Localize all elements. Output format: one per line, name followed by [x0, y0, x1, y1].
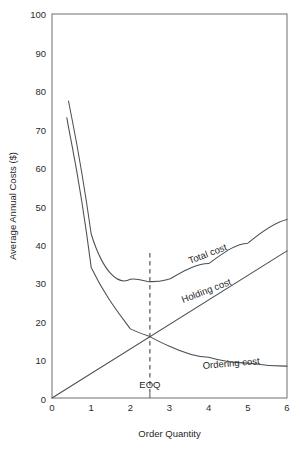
y-tick-60: 60 — [35, 163, 46, 174]
y-tick-label-80: 80 — [35, 86, 46, 97]
x-tick-label-3: 3 — [167, 402, 172, 413]
x-tick-label-1: 1 — [89, 402, 94, 413]
y-tick-30: 30 — [35, 278, 46, 289]
y-tick-label-0: 0 — [41, 394, 46, 405]
y-axis-title: Average Annual Costs ($) — [7, 152, 18, 260]
y-tick-label-90: 90 — [35, 48, 46, 59]
y-tick-0: 0 — [41, 394, 46, 405]
y-axis-group: 100 90 80 70 60 50 40 30 — [30, 9, 46, 405]
y-tick-label-20: 20 — [35, 317, 46, 328]
y-tick-80: 80 — [35, 86, 46, 97]
y-tick-label-30: 30 — [35, 278, 46, 289]
y-tick-90: 90 — [35, 48, 46, 59]
eoq-chart: 100 90 80 70 60 50 40 30 — [0, 0, 300, 452]
y-tick-10: 10 — [35, 355, 46, 366]
y-tick-40: 40 — [35, 240, 46, 251]
y-tick-20: 20 — [35, 317, 46, 328]
y-tick-50: 50 — [35, 202, 46, 213]
y-tick-label-60: 60 — [35, 163, 46, 174]
eoq-annotation-label: EOQ — [139, 379, 160, 390]
y-tick-label-10: 10 — [35, 355, 46, 366]
chart-canvas: 100 90 80 70 60 50 40 30 — [0, 0, 300, 452]
y-tick-label-100: 100 — [30, 9, 46, 20]
x-tick-label-4: 4 — [206, 402, 211, 413]
x-axis-title: Order Quantity — [138, 428, 201, 439]
x-tick-label-2: 2 — [128, 402, 133, 413]
y-tick-70: 70 — [35, 125, 46, 136]
y-tick-label-50: 50 — [35, 202, 46, 213]
x-tick-label-5: 5 — [245, 402, 250, 413]
y-tick-label-40: 40 — [35, 240, 46, 251]
y-tick-label-70: 70 — [35, 125, 46, 136]
x-tick-label-6: 6 — [284, 402, 289, 413]
y-tick-100: 100 — [30, 9, 46, 20]
x-tick-label-0: 0 — [49, 402, 54, 413]
